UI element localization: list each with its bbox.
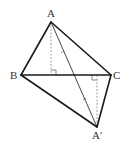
label-a: A [47,7,55,19]
tick-mark-upper [61,51,64,53]
label-c: C [113,69,120,81]
edge-ab [21,22,51,75]
edge-c-a-prime [97,75,111,127]
geometry-diagram: A B C A′ [0,0,131,143]
label-b: B [10,69,17,81]
label-a-prime: A′ [92,129,102,141]
edge-ac [51,22,111,75]
